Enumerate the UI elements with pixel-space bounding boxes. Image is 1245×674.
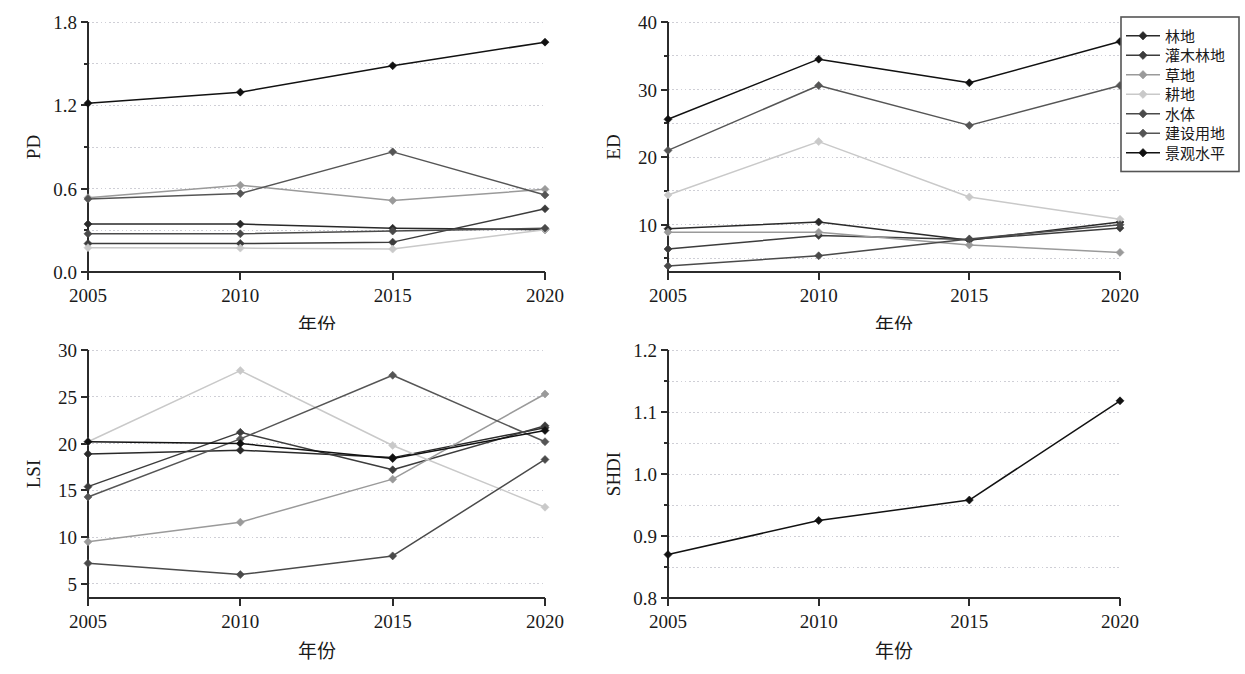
y-tick-label: 1.1 [633, 402, 657, 423]
data-point-marker [541, 191, 549, 199]
series-line [88, 228, 545, 234]
legend: 林地灌木林地草地耕地水体建设用地景观水平 [1120, 16, 1240, 173]
legend-label-grass[interactable]: 草地 [1165, 67, 1195, 85]
data-point-marker [965, 193, 973, 201]
data-point-marker [84, 493, 92, 501]
data-point-marker [815, 138, 823, 146]
y-tick-label: 5 [68, 574, 78, 595]
x-axis-title: 年份 [875, 314, 913, 330]
x-axis-title: 年份 [298, 640, 336, 662]
data-point-marker [389, 466, 397, 474]
data-point-marker [389, 148, 397, 156]
data-point-marker [664, 115, 672, 123]
x-tick-label: 2010 [800, 285, 838, 306]
y-tick-label: 30 [638, 80, 657, 101]
data-point-marker [1116, 248, 1124, 256]
y-axis-title: ED [603, 134, 624, 159]
data-point-marker [965, 496, 973, 504]
x-tick-label: 2020 [1101, 285, 1139, 306]
series-line [88, 394, 545, 542]
x-tick-label: 2015 [374, 285, 412, 306]
y-tick-label: 25 [58, 387, 77, 408]
series-line [88, 185, 545, 200]
data-point-marker [389, 371, 397, 379]
x-tick-label: 2005 [69, 285, 107, 306]
data-point-marker [236, 518, 244, 526]
data-point-marker [236, 571, 244, 579]
y-tick-label: 0.8 [633, 588, 657, 609]
series-line [88, 459, 545, 574]
data-point-marker [664, 262, 672, 270]
data-point-marker [664, 245, 672, 253]
x-tick-label: 2015 [950, 285, 988, 306]
legend-label-shrub[interactable]: 灌木林地 [1165, 47, 1225, 65]
y-tick-label: 0.6 [53, 179, 77, 200]
y-tick-label: 1.8 [53, 12, 77, 33]
series-line [668, 142, 1120, 220]
y-axis-title: PD [23, 135, 44, 159]
data-point-marker [541, 438, 549, 446]
series-line [88, 371, 545, 508]
legend-label-landscape[interactable]: 景观水平 [1165, 145, 1225, 163]
x-tick-label: 2020 [1101, 611, 1139, 632]
x-tick-label: 2015 [950, 611, 988, 632]
data-point-marker [389, 62, 397, 70]
x-tick-label: 2010 [221, 285, 259, 306]
data-point-marker [236, 230, 244, 238]
data-point-marker [965, 121, 973, 129]
chart-panel-shdi: 0.80.91.01.11.22005201020152020SHDI年份 [600, 330, 1245, 674]
series-line [668, 86, 1120, 151]
data-point-marker [389, 196, 397, 204]
data-point-marker [664, 191, 672, 199]
data-point-marker [236, 220, 244, 228]
data-point-marker [236, 181, 244, 189]
y-tick-label: 1.2 [53, 95, 77, 116]
data-point-marker [815, 517, 823, 525]
x-tick-label: 2010 [221, 611, 259, 632]
data-point-marker [236, 88, 244, 96]
data-point-marker [664, 146, 672, 154]
data-point-marker [84, 559, 92, 567]
data-point-marker [815, 82, 823, 90]
data-point-marker [236, 367, 244, 375]
legend-label-built[interactable]: 建设用地 [1165, 125, 1225, 143]
y-tick-label: 40 [638, 12, 657, 33]
x-tick-label: 2015 [374, 611, 412, 632]
data-point-marker [664, 551, 672, 559]
data-point-marker [541, 205, 549, 213]
data-point-marker [236, 244, 244, 252]
chart-panel-pd: 0.00.61.21.82005201020152020PD年份 [0, 0, 600, 330]
data-point-marker [541, 38, 549, 46]
series-line [88, 426, 545, 487]
series-line [88, 42, 545, 103]
data-point-marker [389, 441, 397, 449]
x-tick-label: 2010 [800, 611, 838, 632]
y-tick-label: 20 [58, 434, 77, 455]
data-point-marker [236, 440, 244, 448]
x-tick-label: 2005 [649, 285, 687, 306]
y-tick-label: 0.9 [633, 526, 657, 547]
data-point-marker [389, 552, 397, 560]
x-tick-label: 2020 [526, 285, 564, 306]
legend-label-crop[interactable]: 耕地 [1165, 86, 1195, 104]
data-point-marker [389, 475, 397, 483]
data-point-marker [84, 450, 92, 458]
data-point-marker [389, 245, 397, 253]
data-point-marker [84, 220, 92, 228]
x-axis-title: 年份 [298, 314, 336, 330]
x-tick-label: 2005 [69, 611, 107, 632]
legend-label-water[interactable]: 水体 [1165, 106, 1195, 124]
data-point-marker [236, 190, 244, 198]
data-point-marker [1116, 397, 1124, 405]
y-axis-title: SHDI [603, 452, 624, 496]
data-point-marker [541, 455, 549, 463]
x-tick-label: 2005 [649, 611, 687, 632]
data-point-marker [965, 79, 973, 87]
y-tick-label: 15 [58, 480, 77, 501]
data-point-marker [541, 503, 549, 511]
series-line [668, 42, 1120, 120]
y-tick-label: 20 [638, 147, 657, 168]
legend-label-forest[interactable]: 林地 [1165, 28, 1195, 46]
y-axis-title: LSI [23, 460, 44, 489]
x-axis-title: 年份 [875, 640, 913, 662]
